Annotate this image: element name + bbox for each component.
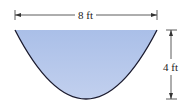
height-label: 4 ft bbox=[163, 59, 178, 75]
width-label: 8 ft bbox=[75, 9, 96, 21]
